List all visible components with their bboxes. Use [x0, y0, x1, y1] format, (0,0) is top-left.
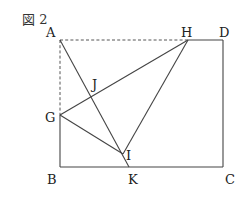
label-g: G	[45, 110, 55, 125]
label-k: K	[128, 172, 138, 187]
segment-h-i	[123, 40, 188, 154]
label-a: A	[45, 25, 56, 40]
segment-g-i	[60, 115, 123, 154]
segment-g-h	[60, 40, 188, 115]
label-j: J	[90, 77, 97, 92]
label-c: C	[225, 172, 235, 187]
label-b: B	[47, 172, 57, 187]
label-h: H	[181, 25, 192, 40]
segment-a-k	[60, 40, 129, 167]
label-i: I	[126, 148, 131, 163]
geometry-figure: 図 2 A H D J G I B K C	[0, 0, 251, 197]
label-d: D	[219, 25, 229, 40]
figure-title: 図 2	[22, 12, 47, 27]
